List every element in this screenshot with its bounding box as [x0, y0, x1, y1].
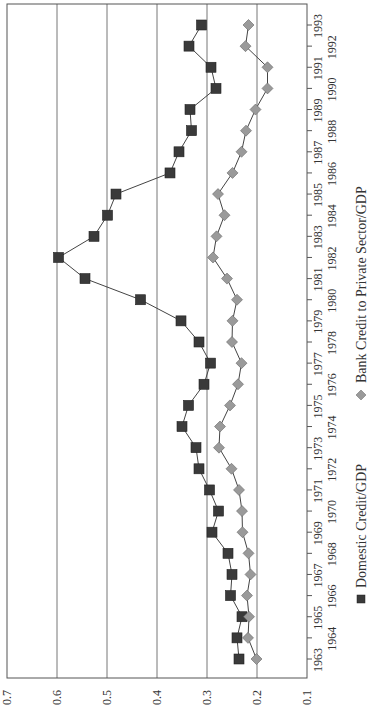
- legend-item-domestic-credit: Domestic Credit/GDP: [354, 464, 369, 603]
- square-marker: [177, 422, 187, 432]
- square-marker: [232, 633, 242, 643]
- diamond-marker: [243, 20, 254, 31]
- square-marker: [191, 443, 201, 453]
- diamond-marker: [232, 294, 243, 305]
- square-marker: [199, 379, 209, 389]
- year-tick-label: 1976: [325, 373, 339, 397]
- diamond-marker: [251, 654, 262, 665]
- year-tick-label: 1988: [325, 120, 339, 144]
- year-tick-label: 1989: [311, 99, 325, 123]
- legend: Domestic Credit/GDP Bank Credit to Priva…: [354, 186, 369, 603]
- legend-label-bank-credit: Bank Credit to Private Sector/GDP: [354, 186, 369, 383]
- square-marker: [234, 654, 244, 664]
- year-tick-label: 1978: [325, 331, 339, 355]
- legend-item-bank-credit: Bank Credit to Private Sector/GDP: [354, 186, 369, 400]
- year-tick-label: 1984: [325, 204, 339, 228]
- square-marker: [206, 358, 216, 368]
- value-tick-label: 0.7: [0, 690, 14, 705]
- value-tick-label: 0.2: [250, 690, 264, 705]
- year-tick-label: 1983: [311, 225, 325, 249]
- square-marker: [207, 527, 217, 537]
- year-tick-label: 1977: [311, 352, 325, 376]
- square-marker: [226, 591, 236, 601]
- square-marker: [187, 126, 197, 136]
- diamond-marker: [219, 210, 230, 221]
- value-tick-label: 0.1: [300, 690, 314, 705]
- year-tick-label: 1982: [325, 246, 339, 270]
- square-marker: [89, 231, 99, 241]
- value-axis-ticks: 0.10.20.30.40.50.60.7: [0, 690, 314, 705]
- square-marker: [165, 168, 175, 178]
- year-tick-label: 1969: [311, 521, 325, 545]
- diamond-marker: [236, 358, 247, 369]
- year-tick-label: 1970: [325, 500, 339, 524]
- square-marker: [194, 464, 204, 474]
- diamond-marker: [222, 273, 233, 284]
- square-marker: [205, 485, 215, 495]
- value-tick-label: 0.3: [200, 690, 214, 705]
- square-marker: [103, 210, 113, 220]
- square-marker: [214, 506, 224, 516]
- year-tick-label: 1974: [325, 416, 339, 440]
- year-tick-label: 1981: [311, 268, 325, 292]
- year-tick-label: 1972: [325, 458, 339, 482]
- square-marker: [136, 295, 146, 305]
- diamond-marker: [226, 463, 237, 474]
- square-marker: [184, 41, 194, 51]
- diamond-marker: [234, 484, 245, 495]
- year-tick-label: 1985: [311, 183, 325, 207]
- diamond-marker: [227, 337, 238, 348]
- year-tick-label: 1973: [311, 437, 325, 461]
- year-axis-ticks: 1963196419651966196719681969197019711972…: [307, 14, 339, 672]
- year-tick-label: 1967: [311, 563, 325, 587]
- year-tick-label: 1990: [325, 77, 339, 101]
- year-tick-label: 1965: [311, 606, 325, 630]
- year-tick-label: 1986: [325, 162, 339, 186]
- square-marker: [194, 337, 204, 347]
- diamond-marker: [250, 104, 261, 115]
- diamond-marker: [237, 506, 248, 517]
- diamond-marker: [227, 167, 238, 178]
- diamond-marker: [236, 146, 247, 157]
- legend-label-domestic-credit: Domestic Credit/GDP: [354, 464, 369, 588]
- square-marker: [176, 316, 186, 326]
- series-line-1: [213, 25, 268, 659]
- diamond-marker: [233, 379, 244, 390]
- year-tick-label: 1993: [311, 14, 325, 38]
- diamond-marker: [227, 315, 238, 326]
- diamond-marker-icon: [356, 390, 366, 400]
- diamond-marker: [225, 400, 236, 411]
- series-line-0: [59, 25, 243, 659]
- square-marker: [206, 62, 216, 72]
- diamond-marker: [243, 548, 254, 559]
- diamond-marker: [237, 527, 248, 538]
- year-tick-label: 1963: [311, 648, 325, 672]
- year-tick-label: 1979: [311, 310, 325, 334]
- square-marker: [185, 105, 195, 115]
- diamond-marker: [245, 569, 256, 580]
- diamond-marker: [243, 632, 254, 643]
- diamond-marker: [214, 442, 225, 453]
- square-marker: [223, 548, 233, 558]
- series-markers: [54, 20, 274, 665]
- diamond-marker: [211, 231, 222, 242]
- value-tick-label: 0.6: [50, 690, 64, 705]
- square-marker: [184, 400, 194, 410]
- year-tick-label: 1992: [325, 35, 339, 59]
- square-marker: [227, 569, 237, 579]
- year-tick-label: 1964: [325, 627, 339, 651]
- year-tick-label: 1980: [325, 289, 339, 313]
- year-tick-label: 1987: [311, 141, 325, 165]
- diamond-marker: [213, 189, 224, 200]
- diamond-marker: [241, 125, 252, 136]
- diamond-marker: [215, 421, 226, 432]
- value-tick-label: 0.5: [100, 690, 114, 705]
- credit-to-gdp-chart: 0.10.20.30.40.50.60.7 196319641965196619…: [0, 0, 381, 710]
- square-marker: [54, 252, 64, 262]
- diamond-marker: [242, 590, 253, 601]
- year-tick-label: 1968: [325, 542, 339, 566]
- year-tick-label: 1991: [311, 56, 325, 80]
- square-marker: [211, 83, 221, 93]
- square-marker: [174, 147, 184, 157]
- diamond-marker: [262, 83, 273, 94]
